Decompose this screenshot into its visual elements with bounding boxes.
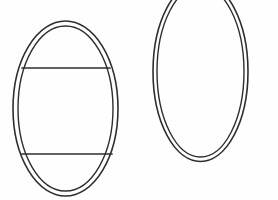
drawing-canvas (0, 0, 278, 200)
line-drawing (0, 0, 278, 200)
